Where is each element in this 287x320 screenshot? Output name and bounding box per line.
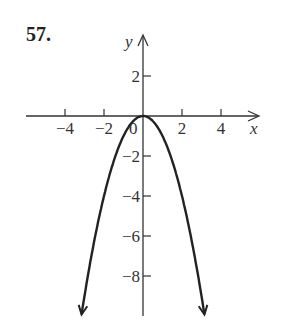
x-tick-label: 2 — [178, 119, 187, 138]
parabola-graph: 57. −4−2242−2−4−6−8 x y 0 — [0, 0, 287, 320]
y-tick-label: −4 — [122, 187, 141, 206]
x-axis-label: x — [249, 119, 258, 138]
y-tick-label: −6 — [122, 227, 140, 246]
y-tick-label: −8 — [122, 267, 140, 286]
problem-number: 57. — [26, 23, 51, 45]
tick-labels: −4−2242−2−4−6−8 — [56, 67, 226, 286]
origin-label: 0 — [129, 119, 138, 138]
y-tick-label: −2 — [122, 147, 140, 166]
x-tick-label: 4 — [217, 119, 226, 138]
axes — [26, 35, 259, 316]
x-tick-label: −2 — [95, 119, 113, 138]
y-tick-label: 2 — [132, 67, 141, 86]
x-tick-label: −4 — [56, 119, 75, 138]
y-axis-label: y — [123, 32, 133, 51]
